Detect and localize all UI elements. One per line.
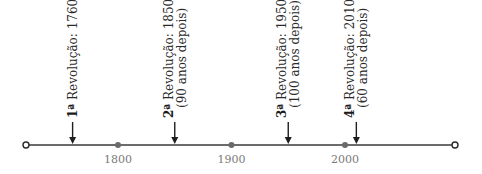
- arrow-down-icon: [285, 137, 292, 144]
- timeline-diagram: 180019002000 1ª Revolução: 17602ª Revolu…: [0, 0, 482, 174]
- event-note: (100 anos depois): [288, 0, 302, 108]
- event-ordinal: 1ª: [66, 104, 80, 118]
- event-marker: 1ª Revolução: 1760: [66, 0, 80, 144]
- event-label: 4ª Revolução: 2010(60 anos depois): [343, 0, 370, 118]
- event-marker: 3ª Revolução: 1950(100 anos depois): [275, 0, 302, 144]
- event-title-text: Revolução: 1850: [162, 0, 176, 104]
- event-label: 2ª Revolução: 1850(90 anos depois): [162, 0, 189, 118]
- arrow-down-icon: [171, 137, 178, 144]
- event-ordinal: 3ª: [275, 104, 289, 118]
- event-ordinal: 4ª: [343, 104, 357, 118]
- event-title-text: Revolução: 2010: [343, 0, 357, 104]
- event-title: 4ª Revolução: 2010: [343, 0, 357, 118]
- tick-dot: [342, 142, 348, 148]
- axis-end-circle: [452, 142, 458, 148]
- event-title: 2ª Revolução: 1850: [162, 0, 176, 118]
- axis-start-circle: [23, 142, 29, 148]
- event-label: 3ª Revolução: 1950(100 anos depois): [275, 0, 302, 118]
- tick-dot: [229, 142, 235, 148]
- arrow-down-icon: [69, 137, 76, 144]
- event-title-text: Revolução: 1760: [66, 0, 80, 104]
- event-marker: 4ª Revolução: 2010(60 anos depois): [343, 0, 370, 144]
- tick-dot: [115, 142, 121, 148]
- event-note: (60 anos depois): [356, 8, 370, 108]
- event-note: (90 anos depois): [175, 8, 189, 108]
- event-title-text: Revolução: 1950: [275, 0, 289, 104]
- tick-label: 1900: [218, 153, 246, 166]
- events-layer: 1ª Revolução: 17602ª Revolução: 1850(90 …: [66, 0, 371, 144]
- event-ordinal: 2ª: [162, 104, 176, 118]
- event-title: 1ª Revolução: 1760: [66, 0, 80, 118]
- arrow-down-icon: [353, 137, 360, 144]
- event-title: 3ª Revolução: 1950: [275, 0, 289, 118]
- tick-label: 2000: [331, 153, 359, 166]
- event-label: 1ª Revolução: 1760: [66, 0, 80, 118]
- event-marker: 2ª Revolução: 1850(90 anos depois): [162, 0, 189, 144]
- tick-label: 1800: [104, 153, 132, 166]
